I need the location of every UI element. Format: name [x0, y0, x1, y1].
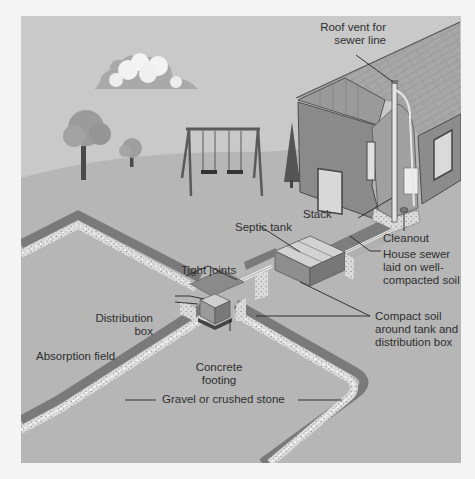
label-house-sewer: House sewer laid on well- compacted soil [383, 248, 460, 287]
label-tight-joints: Tight joints [181, 264, 236, 276]
septic-system-illustration: Roof vent for sewer line Stack Cleanout … [21, 16, 461, 463]
label-stack: Stack [303, 208, 332, 220]
label-distribution-box: Distribution box [81, 312, 153, 338]
label-concrete-footing: Concrete footing [186, 361, 252, 387]
window [367, 142, 375, 180]
label-septic-tank: Septic tank [235, 221, 292, 233]
stack-pipe [392, 82, 397, 222]
label-cleanout: Cleanout [383, 232, 429, 244]
label-roof-vent: Roof vent for sewer line [312, 21, 386, 47]
cleanout-cap [400, 208, 408, 213]
label-compact-soil: Compact soil around tank and distributio… [375, 310, 458, 349]
label-absorption-field: Absorption field [36, 350, 115, 362]
label-gravel: Gravel or crushed stone [162, 393, 285, 405]
